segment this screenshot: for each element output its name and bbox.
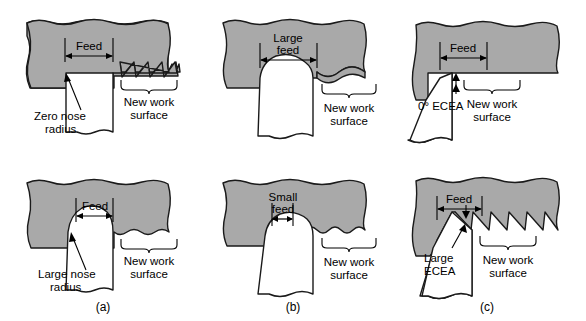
surface-label-b-bottom-line1: New work	[324, 256, 375, 268]
surface-brace-c-top	[464, 80, 520, 94]
figure-canvas: Feed Zero nose radius New work surface F…	[0, 0, 586, 321]
surface-label-c-top-line1: New work	[467, 98, 518, 110]
surface-label-c-bottom-line2: surface	[489, 267, 527, 279]
surface-label-b-top-line1: New work	[324, 102, 375, 114]
surface-brace-b-bottom	[322, 238, 376, 252]
tool-b-top	[258, 54, 313, 138]
panel-b-top: Large feed New work surface	[223, 20, 376, 139]
feed-label-b-bottom-line2: feed	[272, 203, 294, 215]
feed-label-a-bottom: Feed	[82, 200, 108, 212]
surface-label-b-bottom-line2: surface	[330, 269, 368, 281]
surface-label-a-bottom-line2: surface	[130, 268, 168, 280]
tool-label-c-top: 0° ECEA	[418, 100, 464, 112]
surface-brace-c-bottom	[480, 236, 536, 250]
tool-label-a-bottom-line2: radius	[50, 281, 82, 293]
surface-label-a-top-line2: surface	[130, 109, 168, 121]
ecea-arrowhead-upper-c-top	[452, 73, 460, 81]
feed-label-b-bottom-line1: Small	[269, 191, 298, 203]
surface-brace-a-bottom	[121, 239, 177, 253]
tool-label-c-bottom-line1: Large	[424, 252, 453, 264]
feed-label-b-top-line1: Large	[273, 32, 302, 44]
panel-letter-c: (c)	[480, 300, 494, 314]
surface-label-b-top-line2: surface	[330, 115, 368, 127]
tool-label-a-bottom-line1: Large nose	[38, 268, 96, 280]
surface-label-a-top-line1: New work	[124, 96, 175, 108]
surface-label-c-bottom-line1: New work	[483, 254, 534, 266]
surface-label-a-bottom-line1: New work	[124, 255, 175, 267]
machining-surface-roughness-figure: Feed Zero nose radius New work surface F…	[0, 0, 586, 321]
feed-label-c-top: Feed	[450, 42, 476, 54]
panel-letter-a: (a)	[96, 300, 111, 314]
panel-letter-b: (b)	[286, 300, 301, 314]
panel-a-top: Feed Zero nose radius New work surface	[26, 20, 180, 136]
feed-label-a-top: Feed	[76, 40, 102, 52]
feed-label-c-bottom: Feed	[446, 193, 472, 205]
panel-a-bottom: Feed Large nose radius New work surface …	[27, 180, 177, 315]
ecea-arrowhead-lower-c-top	[452, 84, 460, 92]
tool-label-a-top-line2: radius	[45, 123, 77, 135]
panel-c-bottom: Feed Large ECEA New work surface (c)	[412, 178, 559, 315]
panel-c-top: Feed 0° ECEA New work surface	[408, 22, 559, 143]
panel-b-bottom: Small feed New work surface (b)	[223, 180, 376, 315]
surface-label-c-top-line2: surface	[473, 111, 511, 123]
surface-brace-b-top	[322, 84, 376, 98]
feed-label-b-top-line2: feed	[277, 44, 299, 56]
surface-brace-a-top	[121, 80, 177, 94]
tool-label-a-top-line1: Zero nose	[34, 110, 86, 122]
tool-label-c-bottom-line2: ECEA	[424, 265, 456, 277]
